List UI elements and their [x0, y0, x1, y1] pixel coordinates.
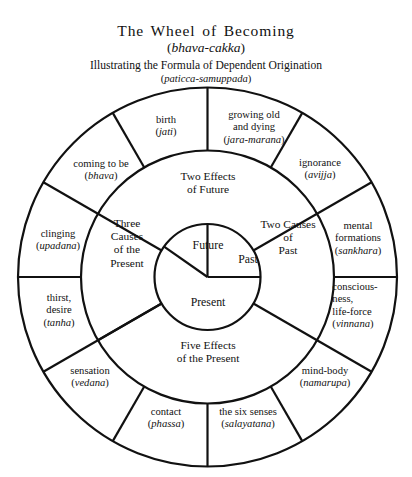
inner-sector-past: Past [238, 253, 258, 267]
pali-term-namarupa: (namarupa) [300, 377, 351, 389]
outer-section-ignorance: ignorance (avijja) [299, 157, 341, 182]
outer-section-coming-to-be: coming to be (bhava) [73, 158, 128, 183]
pali-term-salayatana: (salayatana) [219, 418, 277, 430]
pali-term-bhava: (bhava) [73, 170, 128, 182]
outer-section-mind-body: mind-body (namarupa) [300, 365, 351, 390]
pali-term-jara-marana: (jara-marana) [223, 133, 284, 145]
middle-sector-five-effects-of-present: Five Effects of the Present [177, 339, 240, 365]
inner-sector-present-label: Present [191, 296, 226, 310]
outer-section-consciousness: conscious- ness, life-force (vinnana) [332, 281, 377, 330]
inner-sector-present: Present [191, 296, 226, 310]
pali-term-avijja: (avijja) [299, 169, 341, 181]
outer-section-contact: contact (phassa) [148, 406, 185, 431]
pali-term-phassa: (phassa) [148, 418, 185, 430]
outer-section-sensation: sensation (vedana) [70, 365, 109, 390]
ring-divider-spokes [18, 88, 397, 467]
pali-term-tanha: (tanha) [43, 316, 74, 328]
inner-sector-future: Future [193, 239, 224, 253]
pali-term-vinnana: (vinnana) [332, 318, 377, 330]
inner-sector-past-label: Past [238, 253, 258, 267]
outer-section-mental-formations: mental formations (sankhara) [335, 220, 382, 257]
outer-section-clinging: clinging (upadana) [36, 228, 80, 253]
middle-sector-two-causes-of-past: Two Causes of Past [260, 218, 315, 258]
inner-sector-future-label: Future [193, 239, 224, 253]
outer-section-birth: birth (jati) [155, 114, 176, 139]
pali-term-sankhara: (sankhara) [335, 244, 382, 256]
outer-section-growing-old-and-dying: growing old and dying (jara-marana) [223, 109, 284, 146]
pali-term-jati: (jati) [155, 126, 176, 138]
wheel-of-becoming-diagram: The Wheel of Becoming (bhava-cakka) Illu… [0, 0, 412, 477]
pali-term-upadana: (upadana) [36, 240, 80, 252]
outer-section-six-senses: the six senses (salayatana) [219, 406, 277, 431]
outer-section-thirst-desire: thirst, desire (tanha) [43, 292, 74, 329]
middle-sector-two-effects-of-future: Two Effects of Future [181, 170, 236, 196]
middle-sector-three-causes-of-present: Three Causes of the Present [110, 217, 144, 270]
pali-term-vedana: (vedana) [70, 377, 109, 389]
